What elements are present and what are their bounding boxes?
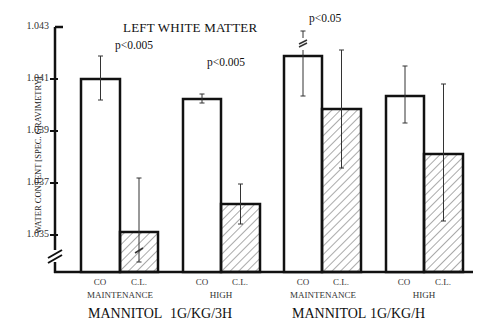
y-axis-label: WATER CONTENT [SPEC. GRAVIMETRY] <box>33 55 43 255</box>
y-axis <box>48 27 63 273</box>
y-tick-label: 1.043 <box>11 20 49 31</box>
p-value-group1: p<0.005 <box>115 39 153 51</box>
x-label-co: CO <box>384 277 424 287</box>
x-label-cl: C.L. <box>220 277 260 287</box>
dose-label-3h: 1G/KG/3H <box>170 306 232 322</box>
treatment-label: MANNITOL <box>292 306 366 322</box>
chart-title: LEFT WHITE MATTER <box>123 20 257 36</box>
bar-cl-high-3h <box>221 184 260 272</box>
y-tick-label: 1.041 <box>11 72 49 83</box>
bar-co-maintenance-3h <box>81 56 120 272</box>
p-value-group2: p<0.005 <box>207 56 245 68</box>
bar-cl-maintenance-3h <box>120 178 158 272</box>
dose-label-h: 1G/KG/H <box>370 306 425 322</box>
x-label-cl: C.L. <box>321 277 361 287</box>
p-value-group3: p<0.05 <box>309 12 341 24</box>
bar-cl-high-h <box>424 84 463 272</box>
bar-co-high-h <box>386 66 424 272</box>
bar-co-high-3h <box>183 94 221 272</box>
y-tick-label: 1.035 <box>11 228 49 239</box>
x-label-cl: C.L. <box>119 277 159 287</box>
y-tick-label: 1.039 <box>11 124 49 135</box>
x-label-co: CO <box>80 277 120 287</box>
x-label-cl: C.L. <box>423 277 463 287</box>
x-label-co: CO <box>182 277 222 287</box>
bar-cl-maintenance-h <box>322 50 361 272</box>
y-tick-label: 1.037 <box>11 176 49 187</box>
treatment-label: MANNITOL <box>88 306 162 322</box>
x-label-co: CO <box>283 277 323 287</box>
bar-co-maintenance-h <box>284 31 322 272</box>
group-label-high: HIGH <box>364 290 481 300</box>
